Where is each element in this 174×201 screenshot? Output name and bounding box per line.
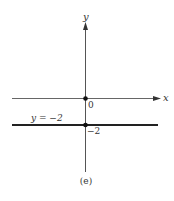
- intercept-label: −2: [87, 126, 100, 136]
- x-axis-arrow-icon: [153, 96, 161, 101]
- origin-label: 0: [88, 100, 94, 110]
- y-axis-arrow-icon: [83, 22, 88, 30]
- line-equation-label: y = −2: [30, 113, 63, 123]
- y-axis-label: y: [82, 11, 89, 22]
- x-axis-label: x: [163, 92, 169, 103]
- figure-caption: (e): [80, 176, 92, 186]
- graph-figure: y x 0 y = −2 −2 (e): [0, 0, 174, 201]
